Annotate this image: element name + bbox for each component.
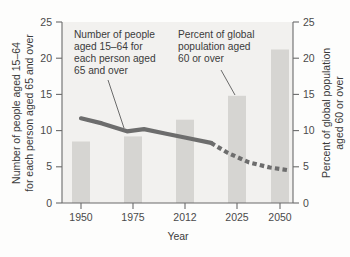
x-tick-2050: 2050: [268, 211, 292, 223]
left-tick-10: 10: [40, 124, 52, 136]
bar-2012: [176, 120, 194, 203]
left-tick-0: 0: [46, 197, 52, 209]
x-tick-2012: 2012: [173, 211, 197, 223]
right-tick-15: 15: [303, 88, 315, 100]
left-axis-title: Number of people aged 15–64 for each per…: [10, 34, 35, 192]
annotation-ratio-line2: aged 15–64 for: [74, 41, 143, 52]
bar-2025: [228, 96, 246, 203]
right-tick-25: 25: [303, 16, 315, 28]
left-axis: 0 5 10 15 20 25: [40, 16, 62, 209]
bar-1975: [124, 136, 142, 203]
annotation-percent-line3: 60 or over: [178, 53, 224, 64]
chart-figure: 0 5 10 15 20 25 0 5 10 15 20 25: [0, 0, 350, 257]
right-tick-5: 5: [303, 160, 309, 172]
right-tick-10: 10: [303, 124, 315, 136]
x-tick-1975: 1975: [121, 211, 145, 223]
left-tick-5: 5: [46, 160, 52, 172]
annotation-ratio-line3: each person aged: [74, 53, 156, 64]
annotation-percent-line1: Percent of global: [178, 29, 254, 40]
bar-1950: [72, 142, 90, 204]
left-tick-15: 15: [40, 88, 52, 100]
right-axis-title-line2: aged 60 or over: [333, 76, 345, 150]
x-axis: 1950 1975 2012 2025 2050 Year: [62, 203, 293, 242]
left-axis-title-line1: Number of people aged 15–64: [10, 42, 22, 184]
left-tick-20: 20: [40, 52, 52, 64]
right-axis-title: Percent of global population aged 60 or …: [320, 48, 345, 178]
left-tick-25: 25: [40, 16, 52, 28]
x-tick-1950: 1950: [69, 211, 93, 223]
left-axis-title-line2: for each person aged 65 and over: [23, 34, 35, 192]
chart-svg: 0 5 10 15 20 25 0 5 10 15 20 25: [0, 0, 350, 257]
annotation-ratio-line1: Number of people: [74, 29, 155, 40]
annotation-ratio-line4: 65 and over: [74, 65, 128, 76]
x-axis-title: Year: [167, 230, 189, 242]
x-tick-2025: 2025: [225, 211, 249, 223]
right-tick-20: 20: [303, 52, 315, 64]
annotation-percent-line2: population aged: [178, 41, 251, 52]
right-axis-title-line1: Percent of global population: [320, 48, 332, 178]
right-tick-0: 0: [303, 197, 309, 209]
right-axis: 0 5 10 15 20 25: [293, 16, 315, 209]
bar-2050: [271, 50, 289, 204]
